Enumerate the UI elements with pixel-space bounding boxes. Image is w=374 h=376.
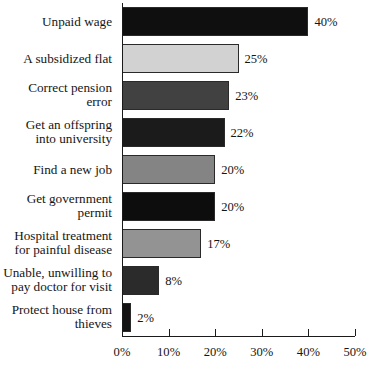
x-axis-tick xyxy=(308,329,309,336)
x-axis-tick xyxy=(122,329,123,336)
bar-row: Find a new job20% xyxy=(0,151,374,188)
value-label: 20% xyxy=(221,199,244,214)
bar[interactable] xyxy=(122,155,215,184)
bar-row: Correct pension error23% xyxy=(0,77,374,114)
value-label: 2% xyxy=(137,310,154,325)
category-label: Get government permit xyxy=(0,192,112,222)
bar-row: Protect house from thieves2% xyxy=(0,299,374,336)
x-axis-line xyxy=(122,336,355,337)
value-label: 40% xyxy=(314,14,337,29)
x-axis-tick-label: 10% xyxy=(157,345,180,360)
bar-band xyxy=(122,81,229,110)
bar[interactable] xyxy=(122,229,201,258)
x-axis-tick xyxy=(169,329,170,336)
category-label: Get an offspring into university xyxy=(0,118,112,148)
bar[interactable] xyxy=(122,44,239,73)
bar-band xyxy=(122,7,308,36)
category-label: Unable, unwilling to pay doctor for visi… xyxy=(0,266,112,296)
bar-rows: Unpaid wage40%A subsidized flat25%Correc… xyxy=(0,3,374,336)
bar-band xyxy=(122,229,201,258)
bar-band xyxy=(122,303,131,332)
bar-row: Get government permit20% xyxy=(0,188,374,225)
bar[interactable] xyxy=(122,7,308,36)
x-axis-tick-label: 50% xyxy=(343,345,366,360)
bar-chart: Unpaid wage40%A subsidized flat25%Correc… xyxy=(0,0,374,376)
y-axis-line xyxy=(122,3,123,336)
value-label: 22% xyxy=(231,125,254,140)
bar-row: Unable, unwilling to pay doctor for visi… xyxy=(0,262,374,299)
x-axis-tick-label: 0% xyxy=(114,345,131,360)
category-label: Correct pension error xyxy=(0,81,112,111)
bar[interactable] xyxy=(122,303,131,332)
x-axis-tick xyxy=(215,329,216,336)
plot-area: Unpaid wage40%A subsidized flat25%Correc… xyxy=(0,0,374,376)
bar-row: Get an offspring into university22% xyxy=(0,114,374,151)
value-label: 23% xyxy=(235,88,258,103)
bar[interactable] xyxy=(122,81,229,110)
value-label: 17% xyxy=(207,236,230,251)
bar-band xyxy=(122,266,159,295)
category-label: Hospital treatment for painful disease xyxy=(0,229,112,259)
x-axis-tick xyxy=(355,329,356,336)
bar[interactable] xyxy=(122,118,225,147)
value-label: 8% xyxy=(165,273,182,288)
category-label: Protect house from thieves xyxy=(0,303,112,333)
bar-band xyxy=(122,118,225,147)
bar[interactable] xyxy=(122,266,159,295)
bar[interactable] xyxy=(122,192,215,221)
bar-row: A subsidized flat25% xyxy=(0,40,374,77)
value-label: 25% xyxy=(245,51,268,66)
category-label: Unpaid wage xyxy=(0,14,112,29)
bar-band xyxy=(122,44,239,73)
x-axis-tick-label: 30% xyxy=(250,345,273,360)
bar-band xyxy=(122,155,215,184)
category-label: Find a new job xyxy=(0,162,112,177)
category-label: A subsidized flat xyxy=(0,51,112,66)
value-label: 20% xyxy=(221,162,244,177)
bar-row: Unpaid wage40% xyxy=(0,3,374,40)
x-axis-tick-label: 40% xyxy=(297,345,320,360)
bar-band xyxy=(122,192,215,221)
x-axis-tick xyxy=(262,329,263,336)
bar-row: Hospital treatment for painful disease17… xyxy=(0,225,374,262)
x-axis-tick-label: 20% xyxy=(204,345,227,360)
